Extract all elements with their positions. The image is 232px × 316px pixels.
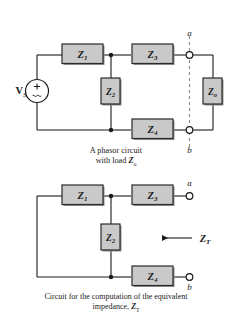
terminal-a-top-circuit (186, 52, 193, 59)
voltage-source-vs (26, 80, 49, 103)
impedance-box-z1-top: Z1 (62, 44, 105, 65)
caption-top-line1: A phasor circuit (0, 146, 232, 156)
caption-bottom-line2: impedance, ZT (0, 302, 232, 315)
caption-top-line2-prefix: with load (96, 156, 129, 165)
zt-label: ZT (199, 233, 211, 247)
terminal-b-label-bottom: b (187, 282, 192, 292)
zt-annotation: ZT (162, 233, 211, 247)
impedance-box-z4-top: Z4 (132, 119, 175, 140)
caption-bottom-circuit: Circuit for the computation of the equiv… (0, 292, 232, 315)
caption-top-circuit: A phasor circuit with load Zo (0, 146, 232, 169)
terminal-b-top-circuit (186, 127, 193, 134)
terminal-a-bottom-circuit (186, 193, 193, 200)
voltage-source-label: VS (15, 85, 27, 99)
bottom-circuit-group: Z1 Z3 Z4 Z2 a (37, 178, 211, 292)
terminal-a-label-bottom: a (187, 178, 192, 188)
caption-top-line2: with load Zo (0, 156, 232, 169)
impedance-box-zo-load: Zo (203, 78, 224, 106)
junction-node-bottom-circuit-bottom (109, 275, 113, 279)
terminal-b-bottom-circuit (186, 274, 193, 281)
caption-bottom-line1: Circuit for the computation of the equiv… (0, 292, 232, 302)
impedance-box-z2-bottom: Z2 (101, 224, 122, 252)
junction-node-bottom (109, 128, 113, 132)
impedance-box-z4-bottom: Z4 (132, 266, 175, 287)
terminal-a-label-top: a (187, 28, 192, 38)
top-circuit-group: Z1 Z3 Z4 Z2 (15, 28, 223, 155)
impedance-box-z3-top: Z3 (132, 44, 175, 65)
caption-bottom-line2-sub: T (136, 306, 140, 312)
junction-node-bottom-circuit-top (109, 194, 113, 198)
impedance-box-z3-bottom: Z3 (132, 185, 175, 206)
impedance-box-z2-top: Z2 (101, 78, 122, 106)
junction-node-top (109, 53, 113, 57)
caption-bottom-line2-prefix: impedance, (92, 302, 131, 311)
circuit-figure: Z1 Z3 Z4 Z2 (0, 0, 232, 316)
voltage-source-circle (26, 80, 49, 103)
caption-top-line2-sub: o (133, 161, 136, 167)
impedance-box-z1-bottom: Z1 (62, 185, 105, 206)
